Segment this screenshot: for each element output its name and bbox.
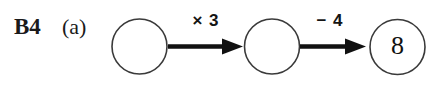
arrow-1-head [222, 39, 243, 55]
node-circle-2[interactable] [245, 19, 300, 74]
part-label: (a) [62, 14, 86, 39]
worksheet-figure: B4 (a) × 3 − 4 8 [0, 0, 433, 90]
operation-label-2: − 4 [316, 11, 343, 30]
node-value-3: 8 [391, 31, 404, 60]
arrow-2-head [345, 39, 366, 55]
question-number-label: B4 [14, 14, 41, 39]
operation-label-1: × 3 [192, 11, 219, 30]
arrow-1 [168, 39, 243, 55]
function-machine-diagram: B4 (a) × 3 − 4 8 [0, 0, 433, 90]
node-circle-1[interactable] [112, 19, 167, 74]
arrow-2 [300, 39, 366, 55]
